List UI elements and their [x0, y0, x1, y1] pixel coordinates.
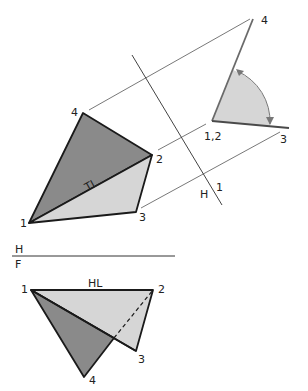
aux-label-1-2: 1,2	[204, 130, 222, 143]
front-label-1: 1	[21, 283, 28, 296]
aux-label-4: 4	[261, 14, 268, 27]
front-label-3: 3	[138, 353, 145, 366]
top-label-4: 4	[71, 106, 78, 119]
fold-h1-label-h: H	[200, 188, 208, 201]
front-label-2: 2	[158, 283, 165, 296]
top-label-1: 1	[20, 217, 27, 230]
fold-h1-label-1: 1	[216, 181, 223, 194]
front-label-hl: HL	[88, 277, 103, 290]
fold-hf-label-f: F	[15, 258, 21, 271]
projector-line-3	[141, 132, 280, 208]
dihedral-angle-diagram: 4 2 3 1 TL 4 1,2 3 H 1 H F 1 HL 2 3 4	[0, 0, 308, 391]
top-label-3: 3	[139, 211, 146, 224]
aux-label-3: 3	[280, 133, 287, 146]
front-label-4: 4	[89, 374, 96, 387]
projector-line-2	[158, 124, 206, 150]
top-label-2: 2	[156, 153, 163, 166]
fold-hf-label-h: H	[15, 243, 23, 256]
